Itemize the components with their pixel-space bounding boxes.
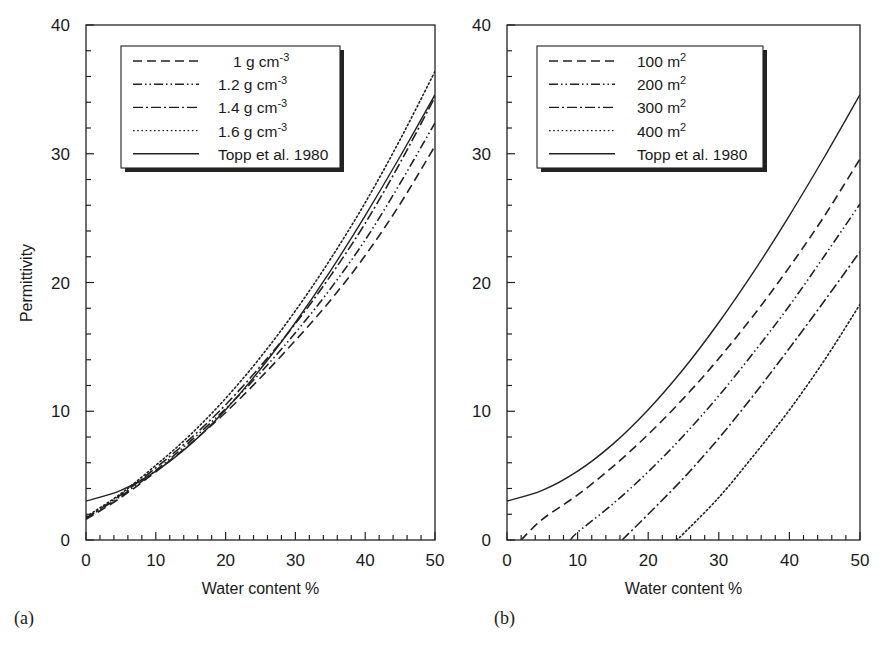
series-line (86, 123, 435, 518)
y-axis-label: Permittivity (18, 244, 35, 322)
legend-label: 200 m2 (637, 74, 686, 93)
x-tick-label: 20 (639, 551, 658, 570)
series-line (521, 159, 860, 540)
legend-label: 1.4 g cm-3 (218, 97, 287, 116)
y-tick-label: 40 (472, 16, 491, 35)
panel-b: 01020304001020304050Water content %(b)10… (472, 16, 869, 629)
x-tick-label: 50 (851, 551, 870, 570)
legend-label: 100 m2 (637, 51, 686, 70)
x-tick-label: 40 (780, 551, 799, 570)
y-tick-label: 30 (472, 145, 491, 164)
legend-label: 1.6 g cm-3 (218, 121, 287, 140)
y-tick-label: 0 (61, 531, 70, 550)
panel-a: 01020304001020304050Water content %Permi… (14, 16, 444, 629)
y-tick-label: 40 (51, 16, 70, 35)
x-tick-label: 10 (568, 551, 587, 570)
panel-tag: (a) (14, 608, 34, 629)
y-tick-label: 20 (51, 274, 70, 293)
legend-label: 400 m2 (637, 121, 686, 140)
x-axis-label: Water content % (202, 580, 320, 597)
x-tick-label: 0 (502, 551, 511, 570)
x-tick-label: 0 (81, 551, 90, 570)
legend-label: Topp et al. 1980 (218, 146, 329, 163)
x-tick-label: 30 (286, 551, 305, 570)
series-line (622, 252, 860, 540)
figure: 01020304001020304050Water content %Permi… (0, 0, 885, 652)
y-tick-label: 0 (482, 531, 491, 550)
panel-tag: (b) (494, 608, 515, 629)
y-tick-label: 20 (472, 274, 491, 293)
x-tick-label: 30 (709, 551, 728, 570)
series-line (86, 146, 435, 519)
legend-label: 300 m2 (637, 97, 686, 116)
legend-label: Topp et al. 1980 (637, 146, 748, 163)
series-line (676, 304, 860, 540)
x-tick-label: 20 (216, 551, 235, 570)
x-tick-label: 40 (356, 551, 375, 570)
x-axis-label: Water content % (625, 580, 743, 597)
x-tick-label: 10 (146, 551, 165, 570)
y-tick-label: 10 (472, 402, 491, 421)
legend-label: 1.2 g cm-3 (218, 74, 287, 93)
y-tick-label: 30 (51, 145, 70, 164)
x-tick-label: 50 (426, 551, 445, 570)
legend: 100 m2200 m2300 m2400 m2Topp et al. 1980 (537, 46, 767, 172)
legend: 1 g cm-31.2 g cm-31.4 g cm-31.6 g cm-3To… (121, 46, 344, 172)
y-tick-label: 10 (51, 402, 70, 421)
